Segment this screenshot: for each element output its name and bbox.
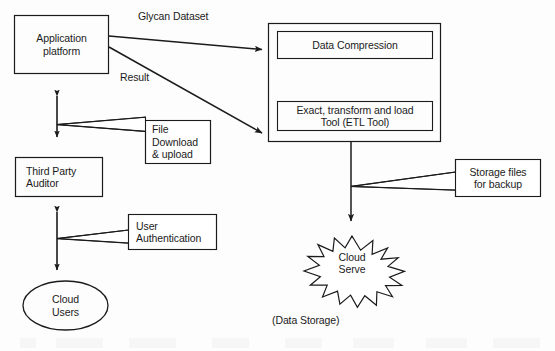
edge-label-glycan-dataset: Glycan Dataset <box>138 10 248 23</box>
cloud-serve-label: Cloud Serve <box>320 250 384 276</box>
scan-artifact-bottom <box>20 338 540 348</box>
diagram-canvas: Application platform Glycan Dataset Resu… <box>0 0 555 351</box>
application-platform-label: Application platform <box>14 15 109 74</box>
file-download-label: File Download & upload <box>152 120 212 164</box>
cloud-users-label: Cloud Users <box>23 281 108 330</box>
storage-files-label: Storage files for backup <box>455 159 541 197</box>
data-compression-label: Data Compression <box>277 31 433 59</box>
edge-glycan-dataset <box>109 36 262 50</box>
data-storage-caption: (Data Storage) <box>272 314 382 327</box>
third-party-auditor-label: Third Party Auditor <box>26 158 102 196</box>
user-authentication-label: User Authentication <box>136 214 220 250</box>
edge-label-result: Result <box>120 71 180 84</box>
etl-tool-label: Exact, transform and load Tool (ETL Tool… <box>277 101 433 131</box>
